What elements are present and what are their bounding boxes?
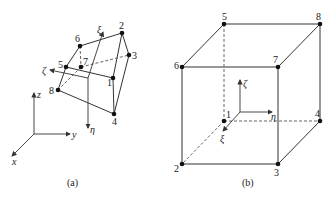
node-7-b <box>276 65 281 70</box>
caption-b: (b) <box>242 177 254 189</box>
xi-label-a: ξ <box>97 24 102 36</box>
node-8-b <box>318 22 323 27</box>
zeta-label-a: ζ <box>42 65 47 77</box>
edge-6-5 <box>66 46 80 67</box>
x-axis <box>12 134 34 156</box>
node-label-4-b: 4 <box>315 108 320 119</box>
node-6-b <box>180 65 185 70</box>
node-label-1-a: 1 <box>107 77 112 88</box>
node-label-3-a: 3 <box>132 50 137 61</box>
figure-canvas: ξ η ζ 1 2 3 4 5 6 7 8 z y x (a) <box>0 0 332 198</box>
node-label-3-b: 3 <box>274 167 279 178</box>
node-label-1-b: 1 <box>226 109 231 120</box>
x-label: x <box>11 156 17 167</box>
panel-a-distorted-hexahedron: ξ η ζ 1 2 3 4 5 6 7 8 z y x (a) <box>11 20 137 189</box>
node-label-7-a: 7 <box>83 56 88 67</box>
edge-1-2-hidden <box>182 121 224 164</box>
node-label-2-b: 2 <box>174 163 179 174</box>
edge-7-3-hidden <box>81 55 129 67</box>
caption-a: (a) <box>67 177 78 189</box>
node-2-b <box>180 162 185 167</box>
edge-2-3 <box>122 33 129 55</box>
y-label: y <box>71 129 77 140</box>
edge-1-4 <box>113 78 114 114</box>
node-label-7-b: 7 <box>273 54 278 65</box>
node-label-8-b: 8 <box>316 11 321 22</box>
xi-label-b: ξ <box>220 133 225 145</box>
node-label-4-a: 4 <box>112 116 117 127</box>
node-label-6-a: 6 <box>75 33 80 44</box>
edge-5-6 <box>182 24 224 67</box>
node-3-a <box>127 53 132 58</box>
node-label-8-a: 8 <box>49 85 54 96</box>
panel-b-reference-cube: ζ η ξ 1 2 3 4 5 6 7 8 (b) <box>174 11 322 189</box>
eta-label-a: η <box>90 124 95 135</box>
node-6-a <box>78 44 83 49</box>
edge-8-4 <box>58 90 114 114</box>
node-label-5-a: 5 <box>58 59 63 70</box>
zeta-label-b: ζ <box>243 78 248 90</box>
node-8-a <box>56 88 61 93</box>
edge-7-8-hidden <box>58 67 81 90</box>
node-label-5-b: 5 <box>222 11 227 22</box>
node-2-a <box>120 31 125 36</box>
node-4-b <box>318 119 323 124</box>
node-label-6-b: 6 <box>174 60 179 71</box>
edge-3-4 <box>278 121 320 164</box>
z-label: z <box>36 89 41 100</box>
edge-2-1 <box>113 33 122 78</box>
node-5-b <box>222 22 227 27</box>
eta-label-b: η <box>271 111 276 122</box>
node-5-a <box>64 65 69 70</box>
node-label-2-a: 2 <box>119 20 124 31</box>
xi-axis-a <box>88 32 103 78</box>
edge-6-7-hidden <box>80 46 81 67</box>
node-3-b <box>276 162 281 167</box>
edge-8-7 <box>278 24 320 67</box>
